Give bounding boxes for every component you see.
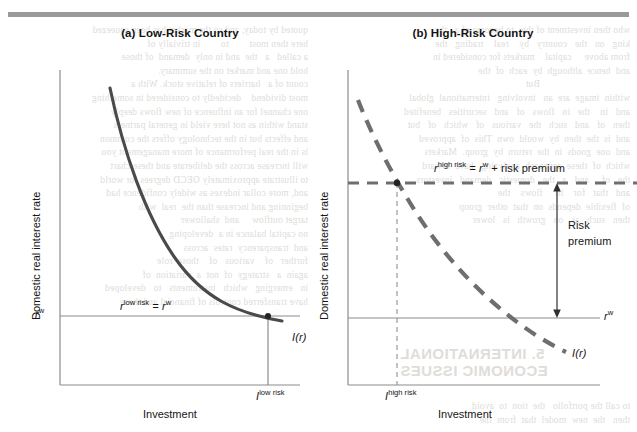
panel-a-equilibrium-point	[265, 313, 271, 319]
panel-a-curve-label: I(r)	[292, 331, 306, 343]
panel-b-investment-tick: Ihigh risk	[385, 390, 416, 402]
panel-b-world-rate-label: rw	[604, 310, 613, 322]
panel-b-equilibrium-point	[394, 180, 400, 186]
panel-a-y-axis-label: Domestic real interest rate	[30, 192, 42, 320]
panel-b-risk-premium-label-line1: Risk	[568, 219, 590, 231]
panel-b-x-axis-label: Investment	[438, 408, 492, 420]
panel-b-risk-premium-arrow	[553, 183, 561, 318]
panel-a-investment-tick: Ilow risk	[256, 390, 284, 402]
panel-a-plot	[60, 70, 300, 385]
panel-b-y-axis-label: Domestic real interest rate	[318, 192, 330, 320]
panel-b-investment-curve	[358, 100, 566, 352]
panel-b-risk-premium-label-line2: premium	[568, 235, 612, 247]
panel-a-investment-curve	[110, 88, 282, 321]
panel-a-x-axis-label: Investment	[143, 408, 197, 420]
panel-b-curve-label: I(r)	[572, 347, 586, 359]
panel-b-plot	[348, 70, 637, 385]
panel-a-world-rate-tick: rw	[35, 308, 44, 320]
panel-a-equilibrium-rate-label: rlow risk = rw	[120, 300, 171, 312]
figure-container: quoted by today, and so the market has b…	[0, 0, 637, 432]
panel-b-risk-rate-label: rhigh risk = rw + risk premium	[434, 162, 565, 174]
